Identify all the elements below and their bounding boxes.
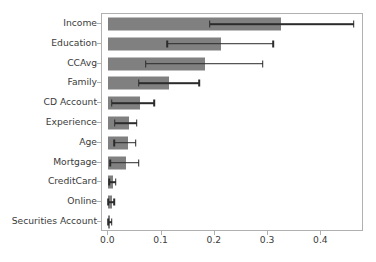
error-bar-cap [138,80,140,87]
error-bar-cap [108,199,110,206]
y-axis-tick-label: Income [63,18,97,27]
error-bar-cap [209,20,211,27]
error-bar-cap [166,40,168,47]
y-axis-tick-label: CCAvg [67,58,97,67]
error-bar-cap [138,159,140,166]
y-axis-tick-labels: IncomeEducationCCAvgFamilyCD AccountExpe… [0,0,97,262]
y-axis-tick-label: CD Account [43,98,97,107]
error-bar-cap [272,40,274,47]
error-bar-cap [262,60,264,67]
error-bar [110,162,139,164]
error-bar [115,122,137,124]
x-axis-tick-label: 0.3 [260,235,275,244]
y-axis-tick-label: Online [67,197,97,206]
x-axis-tick-label: 0.2 [207,235,222,244]
y-axis-tick-label: CreditCard [48,177,97,186]
y-axis-tick-label: Family [67,78,97,87]
y-axis-tick-label: Experience [46,117,97,126]
x-axis-tick-label: 0.1 [153,235,168,244]
error-bar [139,83,200,85]
error-bar-cap [113,139,115,146]
error-bar-cap [115,179,117,186]
error-bar-cap [136,120,138,127]
x-axis-tick-label: 0.0 [100,235,115,244]
x-axis-tick-label: 0.4 [313,235,328,244]
error-bar-cap [199,80,201,87]
y-axis-tick-label: Mortgage [53,157,97,166]
error-bar-cap [145,60,147,67]
error-bar-cap [108,219,110,226]
error-bar [112,102,155,104]
error-bar-cap [109,159,111,166]
error-bar [146,63,263,65]
error-bar-cap [111,100,113,107]
error-bar-cap [111,219,113,226]
error-bar-cap [114,120,116,127]
error-bar [114,142,135,144]
plot-area [101,13,363,231]
y-axis-tick-label: Age [79,137,97,146]
error-bar-cap [153,100,155,107]
feature-importance-chart: IncomeEducationCCAvgFamilyCD AccountExpe… [0,0,376,262]
error-bar [167,43,273,45]
y-axis-tick-label: Securities Account [12,216,97,225]
y-axis-tick-label: Education [51,38,97,47]
error-bar-cap [135,139,137,146]
error-bar-cap [108,179,110,186]
error-bar-cap [353,20,355,27]
error-bar [210,23,354,25]
error-bar-cap [113,199,115,206]
